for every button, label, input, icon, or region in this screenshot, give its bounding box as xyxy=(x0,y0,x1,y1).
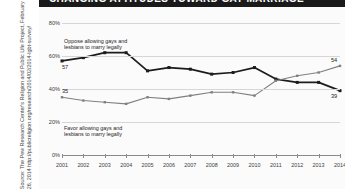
chart-title-bar: CHANGING ATTITUDES TOWARD GAY MARRIAGE xyxy=(39,0,345,7)
chart-panel: 0%20%40%60%80%20012002200320042005200620… xyxy=(39,7,345,189)
x-axis-tick xyxy=(319,154,320,158)
data-point-marker xyxy=(125,103,127,105)
data-point-marker xyxy=(232,71,235,74)
y-axis-tick-label: 60% xyxy=(39,53,60,59)
x-axis-tick-label: 2007 xyxy=(184,162,196,168)
x-axis-tick xyxy=(62,154,63,158)
x-axis-tick xyxy=(105,154,106,158)
data-point-marker xyxy=(82,99,84,101)
chart-screenshot: CHANGING ATTITUDES TOWARD GAY MARRIAGE S… xyxy=(0,0,345,189)
x-axis-tick-label: 2013 xyxy=(313,162,325,168)
data-point-marker xyxy=(296,75,298,77)
label-oppose-end: 39 xyxy=(331,93,337,99)
x-axis-tick xyxy=(83,154,84,158)
data-point-marker xyxy=(61,96,63,98)
x-axis-tick-label: 2014 xyxy=(334,162,345,168)
x-axis-tick xyxy=(254,154,255,158)
x-axis-tick xyxy=(190,154,191,158)
data-point-marker xyxy=(168,98,170,100)
data-point-marker xyxy=(296,81,299,84)
label-oppose-start: 57 xyxy=(62,64,68,70)
annotation-favor: Favor allowing gays and lesbians to marr… xyxy=(64,125,122,138)
y-axis-tick-label: 0% xyxy=(39,152,60,158)
data-point-marker xyxy=(61,59,64,62)
x-axis-tick xyxy=(212,154,213,158)
x-axis-tick-label: 2003 xyxy=(99,162,111,168)
data-point-marker xyxy=(104,101,106,103)
x-axis-tick-label: 2005 xyxy=(142,162,154,168)
plot-area: 0%20%40%60%80%20012002200320042005200620… xyxy=(39,7,345,189)
x-axis-tick-label: 2010 xyxy=(248,162,260,168)
data-point-marker xyxy=(253,94,255,96)
data-point-marker xyxy=(275,80,277,82)
data-point-marker xyxy=(210,73,213,76)
data-point-marker xyxy=(189,68,192,71)
x-axis-tick-label: 2006 xyxy=(163,162,175,168)
gridline xyxy=(62,23,340,24)
data-point-marker xyxy=(253,66,256,69)
source-note-container: Source: The Pew Research Center's Religi… xyxy=(0,0,39,189)
x-axis-tick-label: 2002 xyxy=(77,162,89,168)
x-axis-tick-label: 2008 xyxy=(206,162,218,168)
x-axis-tick-label: 2004 xyxy=(120,162,132,168)
data-point-marker xyxy=(146,69,149,72)
x-axis-line xyxy=(62,155,340,156)
annotation-oppose: Oppose allowing gays and lesbians to mar… xyxy=(64,38,127,51)
data-point-marker xyxy=(125,51,128,54)
gridline xyxy=(62,89,340,90)
data-point-marker xyxy=(210,91,212,93)
gridline xyxy=(62,122,340,123)
page-title: CHANGING ATTITUDES TOWARD GAY MARRIAGE xyxy=(49,0,304,4)
data-point-marker xyxy=(103,51,106,54)
x-axis-tick-label: 2011 xyxy=(270,162,282,168)
label-favor-end: 54 xyxy=(331,57,337,63)
x-axis-tick xyxy=(126,154,127,158)
y-axis-tick-label: 40% xyxy=(39,86,60,92)
label-favor-start: 35 xyxy=(62,88,68,94)
source-note: Source: The Pew Research Center's Religi… xyxy=(19,0,33,189)
x-axis-tick xyxy=(233,154,234,158)
data-point-marker xyxy=(146,96,148,98)
y-axis-tick-label: 20% xyxy=(39,119,60,125)
data-point-marker xyxy=(232,91,234,93)
data-point-marker xyxy=(317,71,319,73)
data-point-marker xyxy=(317,81,320,84)
data-point-marker xyxy=(189,94,191,96)
x-axis-tick xyxy=(340,154,341,158)
gridline xyxy=(62,56,340,57)
x-axis-tick xyxy=(276,154,277,158)
x-axis-tick-label: 2012 xyxy=(291,162,303,168)
data-point-marker xyxy=(167,66,170,69)
y-axis-tick-label: 80% xyxy=(39,20,60,26)
x-axis-tick xyxy=(297,154,298,158)
x-axis-tick xyxy=(169,154,170,158)
data-point-marker xyxy=(339,65,341,67)
x-axis-tick-label: 2009 xyxy=(227,162,239,168)
series-line-oppose xyxy=(62,53,340,91)
x-axis-tick-label: 2001 xyxy=(56,162,68,168)
x-axis-tick xyxy=(148,154,149,158)
